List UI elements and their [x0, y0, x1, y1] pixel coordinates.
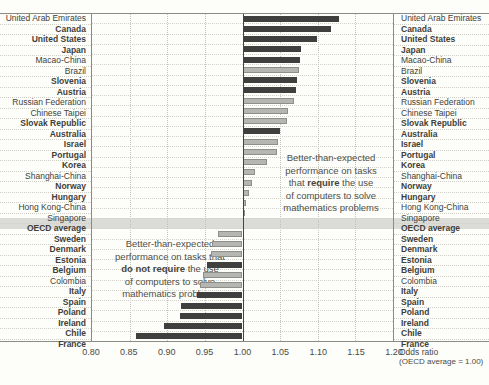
- bar-italy: [200, 282, 243, 288]
- bar-chile: [164, 323, 242, 329]
- bar-colombia: [203, 272, 242, 278]
- x-axis-note: (OECD average = 1.00): [399, 357, 489, 367]
- country-label-belgium: Belgium: [0, 266, 91, 277]
- bar-ireland: [180, 313, 242, 319]
- baseline-odds-1: [243, 14, 244, 341]
- country-label-united-states: United States: [394, 35, 489, 46]
- bar-israel: [243, 139, 278, 145]
- x-axis: Odds ratio (OECD average = 1.00) 0.800.8…: [0, 345, 489, 383]
- bar-australia: [243, 128, 281, 134]
- country-label-oecd-average: OECD average: [0, 224, 91, 235]
- country-label-chile: Chile: [394, 329, 489, 340]
- x-tick-0.90: 0.90: [149, 347, 185, 357]
- annotation-do-not-require: Better-than-expectedperformance on tasks…: [94, 238, 246, 301]
- bar-japan: [243, 46, 302, 52]
- plot-area: Better-than-expectedperformance on tasks…: [91, 14, 394, 341]
- bar-sweden: [218, 231, 243, 237]
- country-label-slovak-republic: Slovak Republic: [0, 119, 91, 130]
- bar-united-states: [243, 36, 317, 42]
- x-axis-title: Odds ratio (OECD average = 1.00): [399, 347, 489, 367]
- country-label-macao-china: Macao-China: [394, 56, 489, 67]
- country-label-russian-federation: Russian Federation: [0, 98, 91, 109]
- bar-estonia: [211, 251, 243, 257]
- bar-denmark: [212, 241, 243, 247]
- bar-slovenia: [243, 77, 297, 83]
- country-label-belgium: Belgium: [394, 266, 489, 277]
- country-label-macao-china: Macao-China: [0, 56, 91, 67]
- country-label-france: France: [394, 340, 489, 350]
- x-tick-0.95: 0.95: [187, 347, 223, 357]
- country-label-italy: Italy: [0, 287, 91, 298]
- country-label-norway: Norway: [394, 182, 489, 193]
- bar-united-arab-emirates: [243, 16, 339, 22]
- bar-hungary: [243, 190, 250, 196]
- bar-chinese-taipei: [243, 108, 289, 114]
- bar-slovak-republic: [243, 118, 287, 124]
- country-label-united-arab-emirates: United Arab Emirates: [0, 14, 91, 25]
- x-tick-0.85: 0.85: [111, 347, 147, 357]
- odds-ratio-chart: United Arab EmiratesCanadaUnited StatesJ…: [0, 0, 489, 385]
- bar-portugal: [243, 149, 278, 155]
- country-label-denmark: Denmark: [0, 245, 91, 256]
- bar-belgium: [207, 262, 242, 268]
- country-label-united-arab-emirates: United Arab Emirates: [394, 14, 489, 25]
- country-label-norway: Norway: [0, 182, 91, 193]
- country-label-slovak-republic: Slovak Republic: [394, 119, 489, 130]
- annotation-require: Better-than-expectedperformance on tasks…: [270, 152, 392, 215]
- country-label-slovenia: Slovenia: [394, 77, 489, 88]
- bar-shanghai-china: [243, 169, 256, 175]
- bar-france: [136, 333, 242, 339]
- country-label-hong-kong-china: Hong Kong-China: [394, 203, 489, 214]
- country-label-united-states: United States: [0, 35, 91, 46]
- country-label-italy: Italy: [394, 287, 489, 298]
- x-tick-1.10: 1.10: [300, 347, 336, 357]
- bar-spain: [197, 292, 243, 298]
- right-label-column: United Arab EmiratesCanadaUnited StatesJ…: [394, 14, 489, 341]
- country-label-hong-kong-china: Hong Kong-China: [0, 203, 91, 214]
- country-label-israel: Israel: [394, 140, 489, 151]
- left-label-column: United Arab EmiratesCanadaUnited StatesJ…: [0, 14, 91, 341]
- x-tick-1.05: 1.05: [262, 347, 298, 357]
- country-label-israel: Israel: [0, 140, 91, 151]
- x-tick-1.15: 1.15: [338, 347, 374, 357]
- bar-canada: [243, 26, 331, 32]
- country-label-russian-federation: Russian Federation: [394, 98, 489, 109]
- country-label-france: France: [0, 340, 91, 350]
- country-label-denmark: Denmark: [394, 245, 489, 256]
- chart-body: United Arab EmiratesCanadaUnited StatesJ…: [0, 13, 489, 342]
- country-label-chile: Chile: [0, 329, 91, 340]
- bar-macao-china: [243, 57, 300, 63]
- country-label-korea: Korea: [394, 161, 489, 172]
- x-tick-1.00: 1.00: [225, 347, 261, 357]
- country-label-korea: Korea: [0, 161, 91, 172]
- country-label-poland: Poland: [394, 308, 489, 319]
- bar-austria: [243, 87, 296, 93]
- bar-norway: [243, 180, 252, 186]
- bar-brazil: [243, 67, 299, 73]
- bar-poland: [181, 303, 243, 309]
- bar-korea: [243, 159, 268, 165]
- country-label-poland: Poland: [0, 308, 91, 319]
- country-label-slovenia: Slovenia: [0, 77, 91, 88]
- country-label-oecd-average: OECD average: [394, 224, 489, 235]
- bar-russian-federation: [243, 98, 294, 104]
